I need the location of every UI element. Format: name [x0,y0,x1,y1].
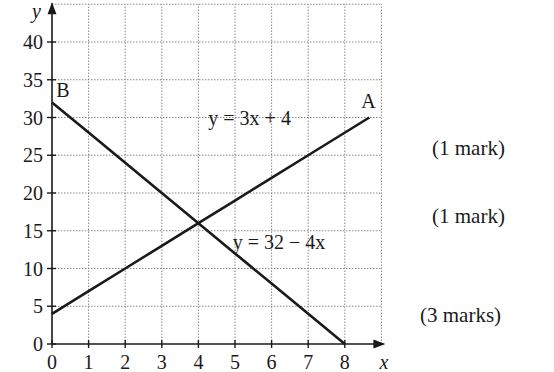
mark-label: (1 mark) [432,136,505,161]
marks-column: (1 mark) (1 mark) (3 marks) [0,0,554,372]
mark-label: (3 marks) [420,303,501,328]
mark-label: (1 mark) [432,204,505,229]
